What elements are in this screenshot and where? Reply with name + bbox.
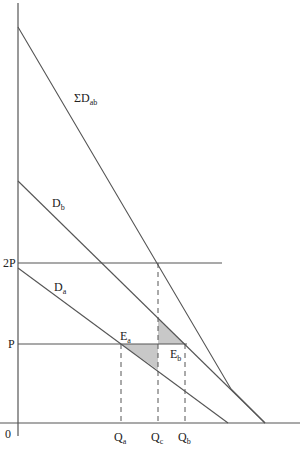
sum-demand-label: ΣDab	[74, 92, 97, 107]
origin-label: 0	[5, 428, 11, 440]
demand-a-label: Da	[54, 281, 66, 296]
qb-label: Qb	[178, 431, 191, 446]
qa-label: Qa	[114, 431, 126, 446]
point-eb-label: Eb	[170, 348, 181, 363]
point-ea-label: Ea	[120, 330, 131, 345]
two-p-label: 2P	[3, 257, 16, 269]
demand-diagram: ΣDab Db Da 2P P 0 Ea Eb Qa Qc Qb	[0, 0, 300, 454]
demand-curve-b	[18, 181, 265, 423]
demand-curve-a	[18, 268, 228, 423]
qc-label: Qc	[151, 431, 163, 446]
diagram-svg	[0, 0, 300, 454]
demand-b-label: Db	[52, 197, 65, 212]
sum-demand-curve	[18, 27, 265, 423]
p-label: P	[8, 338, 15, 350]
